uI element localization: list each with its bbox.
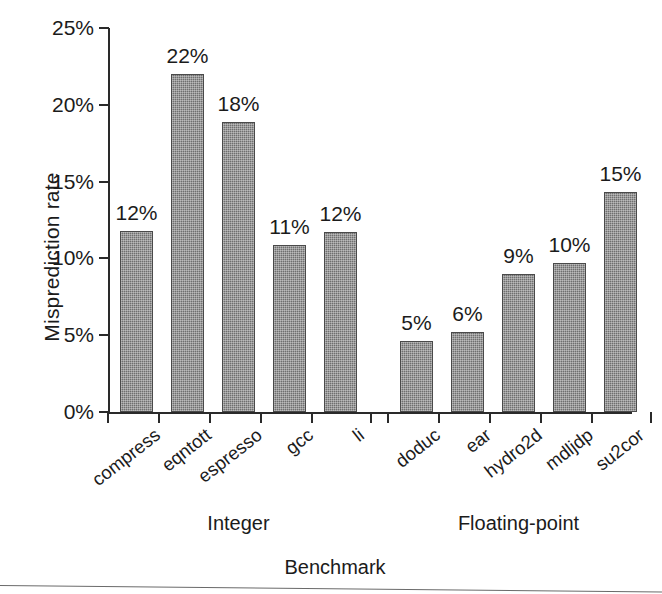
x-tick-mark — [209, 412, 211, 423]
x-tick-mark — [311, 412, 313, 423]
x-group-label: Integer — [207, 512, 269, 535]
bar — [451, 332, 484, 412]
y-tick-mark — [99, 181, 109, 183]
y-axis-line — [108, 28, 110, 414]
bar-value-label: 6% — [452, 302, 482, 326]
y-tick-label: 5% — [64, 323, 94, 347]
bar — [400, 341, 433, 412]
x-tick-mark — [158, 412, 160, 423]
x-tick-mark — [260, 412, 262, 423]
x-tick-mark — [650, 412, 652, 423]
bar-value-label: 12% — [115, 201, 157, 225]
x-category-label: su2cor — [591, 424, 648, 476]
x-group-label: Floating-point — [458, 512, 579, 535]
bar-value-label: 5% — [401, 311, 431, 335]
y-tick-label: 25% — [52, 16, 94, 40]
x-tick-mark — [107, 412, 109, 423]
bar-value-label: 9% — [503, 244, 533, 268]
x-tick-mark — [387, 412, 389, 423]
bar-value-label: 12% — [319, 202, 361, 226]
x-tick-mark — [370, 412, 372, 423]
x-tick-mark — [489, 412, 491, 423]
bar-value-label: 15% — [599, 162, 641, 186]
x-category-label: li — [348, 424, 368, 446]
bar — [171, 74, 204, 412]
x-category-label: ear — [460, 424, 495, 458]
x-category-label: doduc — [391, 424, 444, 472]
plot-area: 0%5%10%15%20%25% 12%22%18%11%12%5%6%9%10… — [108, 28, 632, 412]
y-tick-label: 15% — [52, 170, 94, 194]
bar — [324, 232, 357, 412]
bar — [604, 192, 637, 412]
y-tick-mark — [99, 104, 109, 106]
x-category-label: gcc — [281, 424, 317, 459]
x-tick-mark — [591, 412, 593, 423]
x-axis-title-text: Benchmark — [284, 556, 385, 579]
bar — [553, 263, 586, 412]
y-tick-mark — [99, 257, 109, 259]
x-category-label: compress — [87, 424, 164, 491]
page-rule — [0, 585, 662, 592]
bar-value-label: 11% — [269, 215, 309, 239]
bar — [120, 231, 153, 412]
x-axis-title: Benchmark — [0, 556, 652, 579]
bar-value-label: 18% — [217, 92, 259, 116]
x-category-label: hydro2d — [480, 424, 546, 482]
y-tick-label: 10% — [52, 246, 94, 270]
bar — [273, 245, 306, 412]
y-tick-mark — [99, 334, 109, 336]
y-tick-label: 20% — [52, 93, 94, 117]
bar-value-label: 10% — [548, 233, 590, 257]
y-tick-label: 0% — [64, 400, 94, 424]
y-tick-mark — [99, 27, 109, 29]
x-category-label: mdljdp — [541, 424, 597, 475]
bar — [222, 122, 255, 412]
x-tick-mark — [540, 412, 542, 423]
bar — [502, 274, 535, 412]
x-tick-mark — [438, 412, 440, 423]
bar-value-label: 22% — [166, 44, 208, 68]
